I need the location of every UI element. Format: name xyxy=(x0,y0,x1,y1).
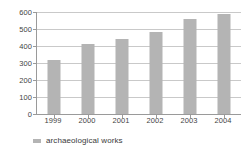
bar xyxy=(218,14,231,114)
legend: archaeological works xyxy=(33,136,123,145)
y-tick-label: 100 xyxy=(19,93,32,102)
legend-label: archaeological works xyxy=(46,136,123,145)
bar-chart: 600 500 400 300 200 100 0 xyxy=(0,0,247,157)
y-tick-label: 0 xyxy=(28,110,32,119)
y-tick-mark xyxy=(33,114,37,115)
bars-layer xyxy=(37,12,241,114)
y-tick-label: 300 xyxy=(19,59,32,68)
y-axis: 600 500 400 300 200 100 0 xyxy=(0,0,34,128)
bar xyxy=(150,32,163,114)
bar xyxy=(116,39,129,114)
y-tick-label: 600 xyxy=(19,8,32,17)
x-tick-label: 2000 xyxy=(78,116,95,125)
x-tick-label: 2002 xyxy=(146,116,163,125)
x-tick-label: 2001 xyxy=(112,116,129,125)
x-axis: 199920002001200220032004 xyxy=(36,116,240,128)
bar xyxy=(48,60,61,114)
x-tick-label: 2004 xyxy=(214,116,231,125)
y-tick-label: 500 xyxy=(19,25,32,34)
y-tick-label: 400 xyxy=(19,42,32,51)
x-tick-label: 2003 xyxy=(180,116,197,125)
x-tick-label: 1999 xyxy=(44,116,61,125)
legend-swatch-icon xyxy=(33,139,41,143)
y-tick-label: 200 xyxy=(19,76,32,85)
bar xyxy=(82,44,95,114)
plot-area xyxy=(36,12,241,115)
bar xyxy=(184,19,197,114)
plot-wrapper: 600 500 400 300 200 100 0 xyxy=(0,0,247,128)
